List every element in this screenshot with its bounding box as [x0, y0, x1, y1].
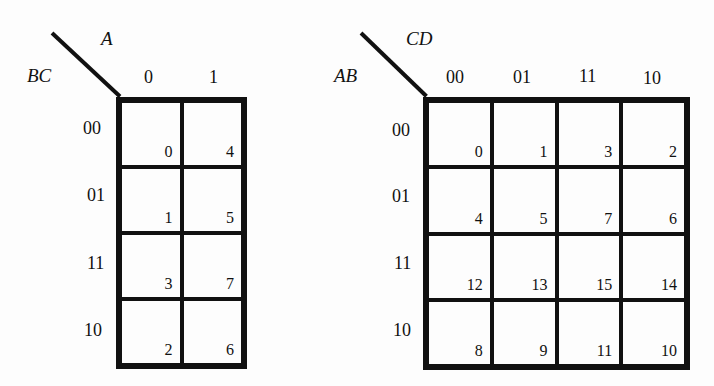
- minterm-number: 8: [475, 342, 483, 360]
- minterm-number: 6: [226, 341, 234, 359]
- row-label: 11: [394, 253, 411, 274]
- kmap-cell: 0: [120, 101, 182, 167]
- row-variable-label: BC: [27, 65, 51, 87]
- minterm-number: 9: [540, 342, 548, 360]
- kmap-cell: 6: [621, 167, 686, 233]
- column-label: 0: [144, 67, 153, 88]
- minterm-number: 11: [597, 342, 612, 360]
- kmap-cell: 3: [120, 233, 182, 299]
- kmap-cell: 6: [182, 299, 244, 365]
- row-label: 00: [392, 120, 410, 141]
- minterm-number: 0: [165, 143, 173, 161]
- minterm-number: 6: [669, 210, 677, 228]
- kmap-cell: 7: [182, 233, 244, 299]
- minterm-number: 4: [226, 143, 234, 161]
- kmap-cell: 7: [557, 167, 622, 233]
- minterm-number: 5: [540, 210, 548, 228]
- minterm-number: 12: [467, 276, 483, 294]
- minterm-number: 2: [669, 143, 677, 161]
- kmap-cell: 13: [492, 234, 557, 300]
- row-label: 10: [84, 320, 102, 341]
- kmap-cell: 9: [492, 300, 557, 366]
- minterm-number: 1: [165, 209, 173, 227]
- minterm-number: 0: [475, 143, 483, 161]
- kmap-cell: 2: [621, 101, 686, 167]
- row-label: 10: [393, 320, 411, 341]
- kmap-cell: 15: [557, 234, 622, 300]
- minterm-number: 2: [165, 341, 173, 359]
- kmap-cell: 10: [621, 300, 686, 366]
- kmap-cell: 1: [492, 101, 557, 167]
- minterm-number: 7: [604, 210, 612, 228]
- column-label: 1: [209, 67, 218, 88]
- kmap-cell: 2: [120, 299, 182, 365]
- kmap-grid: 0 4 1 5 3 7 2 6: [116, 97, 247, 369]
- minterm-number: 7: [226, 275, 234, 293]
- kmap-cell: 4: [182, 101, 244, 167]
- column-label: 00: [446, 67, 464, 88]
- column-label: 01: [513, 67, 531, 88]
- kmap-cell: 8: [427, 300, 492, 366]
- minterm-number: 15: [596, 276, 612, 294]
- column-variable-label: CD: [406, 28, 432, 50]
- kmap-cell: 5: [492, 167, 557, 233]
- minterm-number: 14: [661, 276, 677, 294]
- minterm-number: 1: [540, 143, 548, 161]
- kmap-cell: 5: [182, 167, 244, 233]
- row-label: 01: [392, 186, 410, 207]
- minterm-number: 13: [532, 276, 548, 294]
- kmap-cell: 14: [621, 234, 686, 300]
- kmap-cell: 4: [427, 167, 492, 233]
- kmap-cell: 11: [557, 300, 622, 366]
- column-variable-label: A: [101, 28, 113, 50]
- row-variable-label: AB: [334, 65, 357, 87]
- row-label: 01: [87, 185, 105, 206]
- minterm-number: 10: [661, 342, 677, 360]
- minterm-number: 5: [226, 209, 234, 227]
- row-label: 11: [87, 253, 104, 274]
- column-label: 11: [579, 66, 596, 87]
- column-label: 10: [643, 68, 661, 89]
- minterm-number: 3: [165, 275, 173, 293]
- row-label: 00: [83, 118, 101, 139]
- kmap-cell: 0: [427, 101, 492, 167]
- minterm-number: 3: [604, 143, 612, 161]
- kmap-grid: 0 1 3 2 4 5 7 6 12 13 15 14 8 9 11 10: [423, 97, 690, 370]
- kmap-cell: 12: [427, 234, 492, 300]
- kmap-cell: 1: [120, 167, 182, 233]
- kmap-cell: 3: [557, 101, 622, 167]
- minterm-number: 4: [475, 210, 483, 228]
